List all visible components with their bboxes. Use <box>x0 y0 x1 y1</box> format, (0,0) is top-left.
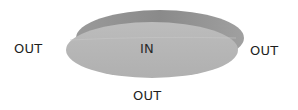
label-out-bottom: OUT <box>133 89 161 102</box>
label-out-left: OUT <box>14 42 42 55</box>
label-out-right: OUT <box>250 44 278 57</box>
in-out-diagram: OUT IN OUT OUT <box>0 0 298 110</box>
label-in: IN <box>140 42 154 55</box>
